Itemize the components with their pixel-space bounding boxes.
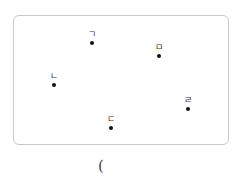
point-label: ㄷ	[107, 115, 115, 124]
answer-parenthesis: (	[98, 157, 104, 175]
point-dot	[186, 107, 190, 111]
point-dot	[90, 41, 94, 45]
point-label: ㄹ	[184, 96, 192, 105]
point-dot	[109, 126, 113, 130]
point-label: ㅁ	[155, 43, 163, 52]
point-label: ㄱ	[88, 30, 96, 39]
point-label: ㄴ	[50, 72, 58, 81]
point-dot	[52, 83, 56, 87]
point-dot	[157, 54, 161, 58]
diagram-frame	[13, 15, 229, 145]
